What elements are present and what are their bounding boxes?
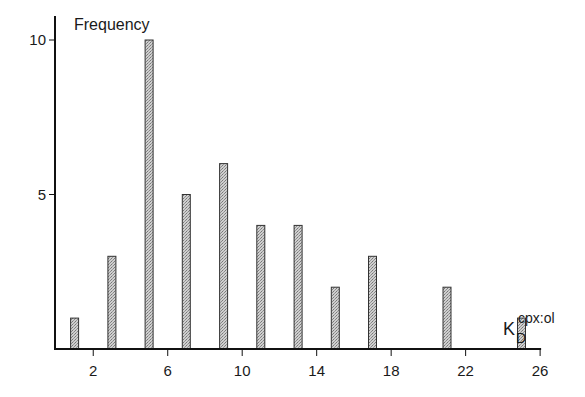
bars-group [71,40,526,349]
x-tick-label-6: 6 [164,362,172,379]
bar-x-7 [182,195,190,350]
x-tick-label-22: 22 [457,362,474,379]
bar-x-9 [220,164,228,349]
bar-x-15 [331,287,339,349]
frequency-histogram: 510261014182226 Frequency K D cpx:ol [0,0,585,397]
bar-x-3 [108,256,116,349]
y-tick-label-10: 10 [29,31,46,48]
x-tick-label-10: 10 [234,362,251,379]
x-axis-label-sub: D [516,330,526,346]
x-tick-label-2: 2 [89,362,97,379]
bar-x-13 [294,225,302,349]
axes-group: 510261014182226 [29,16,548,379]
y-tick-label-5: 5 [38,186,46,203]
x-tick-label-14: 14 [308,362,325,379]
bar-x-1 [71,318,79,349]
x-axis-label: K D cpx:ol [503,310,555,346]
bar-x-11 [257,225,265,349]
y-axis-label: Frequency [74,16,150,33]
bar-x-5 [145,40,153,349]
x-axis-label-sup: cpx:ol [518,310,555,326]
x-tick-label-26: 26 [532,362,549,379]
bar-x-21 [443,287,451,349]
bar-x-17 [369,256,377,349]
x-axis-label-main: K [503,319,515,339]
x-tick-label-18: 18 [383,362,400,379]
